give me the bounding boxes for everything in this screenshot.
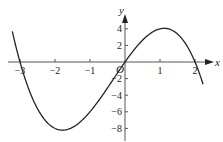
x-axis-arrow-icon [205,59,214,65]
x-tick-label: −1 [85,65,96,76]
y-tick-label: −4 [111,90,122,101]
function-curve [12,28,203,130]
x-tick-label: −2 [50,65,61,76]
x-axis-label: x [214,56,220,68]
y-tick-label: −8 [111,123,122,134]
origin-label: O [116,63,124,75]
y-tick-label: 2 [117,40,122,51]
cubic-function-graph: −3−2−11242−2−4−6−8 x y O [0,0,223,142]
x-tick-label: 1 [158,65,163,76]
y-tick-label: 4 [117,23,122,34]
y-tick-label: −6 [111,106,122,117]
y-axis-label: y [118,4,124,16]
